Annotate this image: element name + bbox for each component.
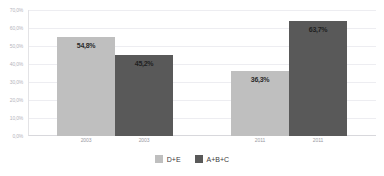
legend-item[interactable]: A+B+C [195,155,230,163]
bar-chart: 70,0%60,0%50,0%40,0%30,0%20,0%10,0%0,0% … [0,0,384,176]
legend-swatch [195,155,203,163]
x-axis-tick-label: 2011 [289,138,347,143]
x-axis-tick-label: 2011 [231,138,289,143]
bar-value-label: 63,7% [289,26,347,33]
y-axis-tick-label: 60,0% [10,26,23,31]
y-axis: 70,0%60,0%50,0%40,0%30,0%20,0%10,0%0,0% [0,10,26,136]
bar-slot: 36,3% [231,10,289,136]
x-axis-tick-label: 2003 [57,138,115,143]
y-axis-tick-label: 30,0% [10,80,23,85]
x-axis-tick-label: 2003 [115,138,173,143]
bar-group: 36,3%63,7% [231,10,347,136]
legend-item[interactable]: D+E [155,155,181,163]
legend-label: D+E [167,156,181,163]
y-axis-tick-label: 70,0% [10,8,23,13]
bar[interactable]: 63,7% [289,21,347,136]
x-axis: 2003200320112011 [28,137,376,147]
bar[interactable]: 36,3% [231,71,289,136]
bar-value-label: 54,8% [57,42,115,49]
bar-value-label: 36,3% [231,76,289,83]
y-axis-tick-label: 50,0% [10,44,23,49]
bar-slot: 54,8% [57,10,115,136]
y-axis-tick-label: 10,0% [10,116,23,121]
y-axis-tick-label: 40,0% [10,62,23,67]
y-axis-tick-label: 0,0% [12,134,23,139]
bar-slot: 45,2% [115,10,173,136]
bar[interactable]: 54,8% [57,37,115,136]
bars-layer: 54,8%45,2%36,3%63,7% [28,10,376,136]
legend-label: A+B+C [207,156,230,163]
bar-value-label: 45,2% [115,60,173,67]
bar-slot: 63,7% [289,10,347,136]
bar-group: 54,8%45,2% [57,10,173,136]
y-axis-tick-label: 20,0% [10,98,23,103]
bar[interactable]: 45,2% [115,55,173,136]
chart-legend: D+EA+B+C [0,155,384,163]
legend-swatch [155,155,163,163]
